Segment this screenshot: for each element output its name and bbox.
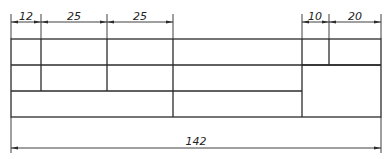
- technical-drawing: 12 25 25 10 20 142: [0, 0, 385, 159]
- outer-frame: [11, 39, 381, 117]
- dimension-label-25a: 25: [67, 11, 81, 22]
- dimension-label-20: 20: [348, 11, 362, 22]
- dimension-label-142: 142: [186, 136, 207, 147]
- dimension-label-10: 10: [308, 11, 322, 22]
- dimension-label-25b: 25: [133, 11, 147, 22]
- dimension-label-12: 12: [19, 11, 33, 22]
